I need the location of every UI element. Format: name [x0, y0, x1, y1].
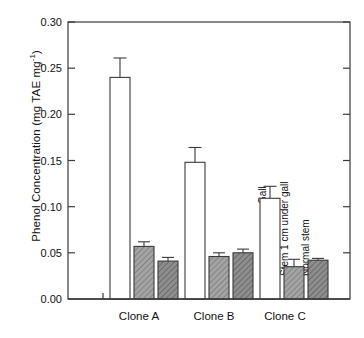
bar-clone-c-normal-stem: [308, 260, 328, 299]
bar-clone-b-normal-stem: [233, 253, 253, 299]
errorbar-clone-a-gall: [114, 58, 127, 77]
bar-clone-a-normal-stem: [158, 261, 178, 299]
bar-group-clone-c: [260, 186, 328, 299]
bar-clone-b-stem-under-gall: [209, 257, 229, 300]
bar-clone-b-gall: [185, 162, 205, 299]
bar-clone-c-gall: [260, 198, 280, 299]
errorbar-clone-c-stem-under-gall: [288, 259, 300, 266]
errorbar-clone-a-stem-under-gall: [138, 242, 150, 247]
errorbar-clone-a-normal-stem: [162, 257, 174, 261]
errorbar-clone-b-stem-under-gall: [213, 253, 225, 257]
bar-group-clone-b: [185, 148, 253, 300]
bar-clone-a-gall: [110, 77, 130, 299]
errorbar-clone-b-gall: [189, 148, 202, 163]
bar-clone-a-stem-under-gall: [134, 246, 154, 299]
errorbar-clone-c-gall: [264, 186, 277, 198]
bar-group-clone-a: [110, 58, 178, 299]
errorbar-clone-b-normal-stem: [237, 249, 249, 253]
plot-svg: [0, 0, 364, 338]
bar-clone-c-stem-under-gall: [284, 267, 304, 299]
phenol-concentration-bar-chart: Phenol Concentration (mg TAE mg-1) 0.30 …: [0, 0, 364, 338]
